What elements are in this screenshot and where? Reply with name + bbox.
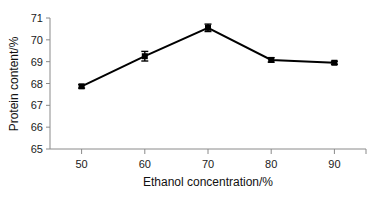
x-axis-title: Ethanol concentration/% <box>143 175 273 189</box>
y-tick-label: 65 <box>31 143 43 155</box>
data-point-marker <box>331 60 337 66</box>
y-tick-label: 70 <box>31 34 43 46</box>
x-tick-label: 50 <box>75 158 87 170</box>
y-tick-label: 68 <box>31 78 43 90</box>
y-tick-label: 67 <box>31 99 43 111</box>
data-point-marker <box>268 57 274 63</box>
chart-background <box>0 0 376 197</box>
y-axis-title: Protein content/% <box>7 36 21 131</box>
x-tick-label: 70 <box>202 158 214 170</box>
x-tick-label: 80 <box>265 158 277 170</box>
chart-container: 65666768697071 5060708090 Ethanol concen… <box>0 0 376 197</box>
y-tick-label: 69 <box>31 56 43 68</box>
data-point-marker <box>205 25 211 31</box>
data-point-marker <box>142 53 148 59</box>
x-tick-label: 60 <box>139 158 151 170</box>
line-chart: 65666768697071 5060708090 Ethanol concen… <box>0 0 376 197</box>
y-tick-label: 71 <box>31 12 43 24</box>
data-point-marker <box>79 83 85 89</box>
x-tick-label: 90 <box>328 158 340 170</box>
y-tick-label: 66 <box>31 121 43 133</box>
